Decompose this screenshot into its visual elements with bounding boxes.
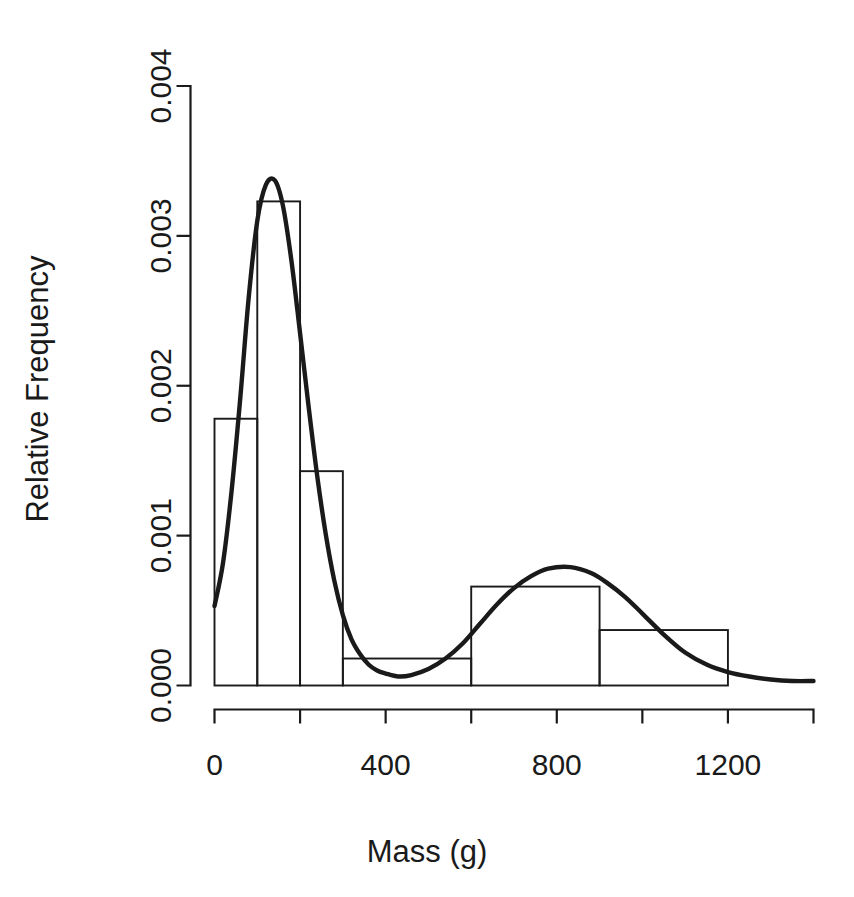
histogram-bar — [343, 659, 471, 686]
x-tick-label: 400 — [361, 748, 411, 781]
y-axis-title: Relative Frequency — [20, 255, 55, 523]
x-axis-tick-labels: 04008001200 — [206, 748, 761, 781]
histogram-bar — [471, 587, 599, 686]
x-axis: 04008001200 — [206, 710, 813, 782]
histogram-bar — [600, 630, 728, 685]
y-axis: 0.0000.0010.0020.0030.004 — [144, 48, 191, 723]
y-tick-label: 0.004 — [144, 48, 177, 123]
y-tick-label: 0.002 — [144, 348, 177, 423]
plot-canvas: 0.0000.0010.0020.0030.004 04008001200 Ma… — [0, 0, 854, 897]
x-tick-label: 0 — [206, 748, 223, 781]
y-tick-label: 0.001 — [144, 498, 177, 573]
x-tick-label: 1200 — [695, 748, 762, 781]
x-tick-label: 800 — [532, 748, 582, 781]
y-axis-ticks — [177, 236, 191, 536]
y-axis-tick-labels: 0.0000.0010.0020.0030.004 — [144, 48, 177, 723]
histogram-density-plot: 0.0000.0010.0020.0030.004 04008001200 Ma… — [0, 0, 854, 897]
y-tick-label: 0.003 — [144, 198, 177, 273]
y-tick-label: 0.000 — [144, 648, 177, 723]
x-axis-ticks — [300, 710, 728, 724]
density-curve — [215, 179, 814, 682]
x-axis-line — [215, 710, 814, 724]
x-axis-title: Mass (g) — [367, 834, 488, 869]
